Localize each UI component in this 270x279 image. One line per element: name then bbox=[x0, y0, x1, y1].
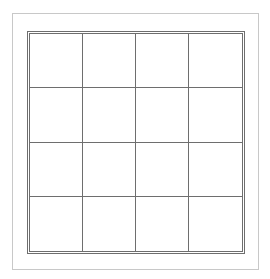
grid-cell[interactable] bbox=[189, 143, 242, 197]
grid-cell[interactable] bbox=[136, 197, 189, 251]
grid-cell[interactable] bbox=[83, 143, 136, 197]
grid-cell[interactable] bbox=[83, 197, 136, 251]
grid-cell[interactable] bbox=[30, 34, 83, 88]
grid bbox=[29, 33, 243, 252]
grid-cell[interactable] bbox=[189, 197, 242, 251]
grid-cell[interactable] bbox=[189, 34, 242, 88]
grid-cell[interactable] bbox=[136, 88, 189, 142]
grid-cell[interactable] bbox=[30, 88, 83, 142]
grid-border bbox=[27, 31, 245, 254]
grid-cell[interactable] bbox=[136, 34, 189, 88]
grid-cell[interactable] bbox=[30, 197, 83, 251]
grid-cell[interactable] bbox=[83, 34, 136, 88]
grid-cell[interactable] bbox=[83, 88, 136, 142]
grid-cell[interactable] bbox=[189, 88, 242, 142]
grid-cell[interactable] bbox=[136, 143, 189, 197]
grid-cell[interactable] bbox=[30, 143, 83, 197]
